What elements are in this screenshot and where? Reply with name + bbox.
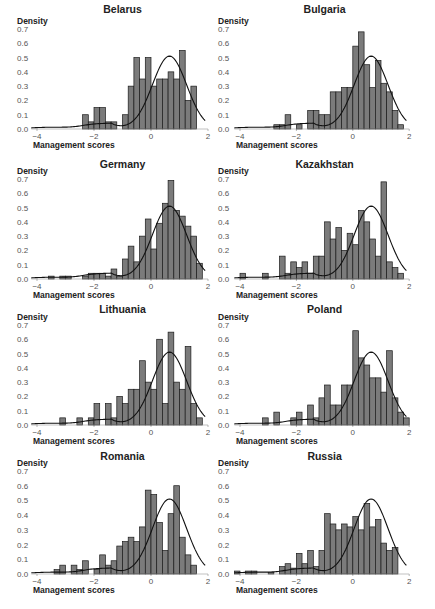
histogram-plot: 0.00.10.20.30.40.50.60.7−4−202 (0, 445, 223, 595)
histogram-bar (325, 514, 331, 574)
histogram-bar (347, 88, 353, 129)
histogram-bar (157, 223, 163, 279)
histogram-bar (375, 378, 381, 425)
y-tick-label: 0.7 (17, 175, 29, 184)
y-tick-label: 0.2 (17, 246, 29, 255)
y-tick-label: 0.1 (218, 111, 230, 120)
y-tick-label: 0.2 (17, 96, 29, 105)
histogram-bar (325, 222, 331, 279)
histogram-plot: 0.00.10.20.30.40.50.60.7−4−202 (0, 295, 223, 445)
histogram-bar (375, 520, 381, 574)
histogram-bar (134, 58, 140, 129)
y-tick-label: 0.3 (218, 526, 230, 535)
histogram-grid: BelarusDensityManagement scores0.00.10.2… (0, 0, 435, 609)
y-tick-label: 0.6 (17, 482, 29, 491)
histogram-bar (296, 412, 302, 425)
histogram-bar (100, 108, 106, 129)
histogram-bar (157, 79, 163, 129)
histogram-bar (358, 32, 364, 129)
histogram-bar (285, 115, 291, 129)
x-tick-label: 0 (351, 132, 356, 141)
histogram-bar (100, 273, 106, 279)
x-tick-label: −2 (89, 282, 99, 291)
y-tick-label: 0.3 (218, 378, 230, 387)
histogram-bar (151, 495, 157, 574)
histogram-bar (263, 273, 269, 279)
x-tick-label: −4 (32, 282, 42, 291)
histogram-bar (111, 561, 117, 574)
x-tick-label: −4 (32, 428, 42, 437)
x-tick-label: 2 (206, 428, 211, 437)
histogram-bar (325, 385, 331, 425)
x-tick-label: 2 (206, 577, 211, 586)
x-tick-label: 0 (149, 132, 154, 141)
x-tick-label: 2 (407, 577, 412, 586)
histogram-bar (123, 115, 129, 129)
y-tick-label: 0.7 (17, 467, 29, 476)
histogram-bar (364, 222, 370, 279)
y-tick-label: 0.5 (218, 54, 230, 63)
histogram-bar (162, 550, 168, 574)
y-tick-label: 0.0 (218, 125, 230, 134)
y-tick-label: 0.3 (17, 232, 29, 241)
histogram-bar (83, 276, 89, 279)
y-tick-label: 0.4 (17, 218, 29, 227)
y-tick-label: 0.1 (218, 407, 230, 416)
y-tick-label: 0.0 (218, 275, 230, 284)
y-tick-label: 0.6 (17, 39, 29, 48)
histogram-bar (140, 527, 146, 574)
histogram-bar (180, 50, 186, 129)
y-tick-label: 0.0 (17, 421, 29, 430)
histogram-bar (392, 110, 398, 129)
histogram-plot: 0.00.10.20.30.40.50.60.7−4−202 (0, 150, 223, 300)
x-tick-label: 2 (407, 132, 412, 141)
histogram-bar (60, 418, 66, 425)
histogram-bar (308, 550, 314, 574)
histogram-bar (364, 65, 370, 129)
histogram-bar (88, 122, 94, 129)
x-tick-label: −2 (292, 132, 302, 141)
histogram-bar (296, 553, 302, 574)
histogram-bar (140, 361, 146, 425)
histogram-bar (197, 418, 203, 425)
y-tick-label: 0.1 (218, 261, 230, 270)
histogram-bar (83, 115, 89, 129)
y-tick-label: 0.7 (17, 25, 29, 34)
histogram-bar (191, 404, 197, 425)
y-tick-label: 0.4 (218, 68, 230, 77)
x-tick-label: 0 (149, 282, 154, 291)
histogram-bar (151, 389, 157, 425)
histogram-bar (83, 561, 89, 574)
y-tick-label: 0.2 (218, 541, 230, 550)
histogram-bar (285, 273, 291, 279)
x-tick-label: −4 (32, 577, 42, 586)
y-tick-label: 0.5 (17, 350, 29, 359)
histogram-bar (105, 276, 111, 279)
y-tick-label: 0.0 (17, 570, 29, 579)
histogram-bar (330, 405, 336, 425)
x-tick-label: 2 (206, 282, 211, 291)
histogram-bar (105, 404, 111, 425)
histogram-bar (88, 418, 94, 425)
histogram-bar (180, 537, 186, 574)
histogram-bar (145, 58, 151, 129)
histogram-plot: 0.00.10.20.30.40.50.60.7−4−202 (212, 150, 435, 300)
histogram-bar (174, 486, 180, 574)
histogram-bar (291, 262, 297, 279)
histogram-bar (240, 273, 246, 279)
histogram-bar (117, 276, 123, 279)
y-tick-label: 0.3 (17, 378, 29, 387)
histogram-bar (387, 92, 393, 129)
histogram-bar (308, 405, 314, 425)
histogram-bar (336, 530, 342, 574)
y-tick-label: 0.5 (17, 204, 29, 213)
y-tick-label: 0.0 (17, 125, 29, 134)
y-tick-label: 0.2 (218, 96, 230, 105)
histogram-bar (375, 60, 381, 129)
histogram-bar (336, 92, 342, 129)
x-tick-label: 0 (351, 282, 356, 291)
panel-russia: RussiaDensityManagement scores0.00.10.20… (212, 445, 435, 609)
histogram-bar (162, 404, 168, 425)
y-tick-label: 0.5 (218, 496, 230, 505)
y-tick-label: 0.7 (218, 175, 230, 184)
